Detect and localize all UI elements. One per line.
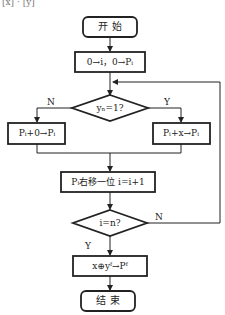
branch-no-label: Pᵢ+0→Pᵢ xyxy=(19,129,56,138)
start-label: 开 始 xyxy=(98,22,121,32)
shift-label: Pᵢ右移一位 i=i+1 xyxy=(71,178,144,187)
end-label: 结 束 xyxy=(96,296,119,306)
decision2-yes-label: Y xyxy=(85,242,91,251)
decision2-no-label: N xyxy=(155,213,163,222)
branch-yes-label: Pᵢ+x→Pᵢ xyxy=(163,129,199,138)
decision2-label: i=n? xyxy=(99,219,120,228)
decision1-no-label: N xyxy=(47,98,55,107)
final-op-label: x⊕yᶠ→Pᶠ xyxy=(92,262,127,271)
decision1-yes-label: Y xyxy=(164,98,170,107)
init-label: 0→i，0→Pᵢ xyxy=(87,58,133,67)
decision1-label: yₙ=1? xyxy=(96,104,123,113)
